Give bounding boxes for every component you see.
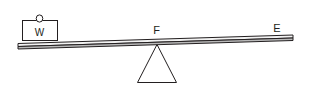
effort-point-label: E: [273, 22, 280, 34]
weight-label: W: [35, 27, 45, 38]
fulcrum-triangle: [138, 45, 177, 83]
lever-diagram: W F E: [0, 0, 313, 96]
hook-ring-icon: [36, 15, 43, 22]
lever-diagram-canvas: W F E: [0, 0, 313, 96]
weight-block: W: [23, 15, 58, 41]
fulcrum: [138, 45, 177, 83]
fulcrum-point-label: F: [153, 24, 160, 36]
